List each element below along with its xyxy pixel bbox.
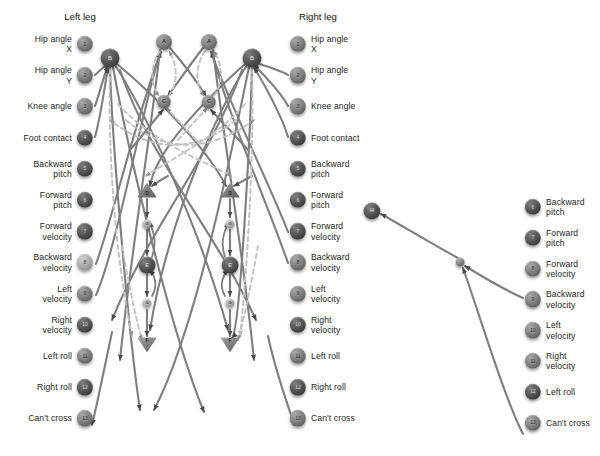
hidden-node-label: D — [145, 191, 149, 197]
hidden-node-f-f2[interactable]: F — [220, 337, 240, 352]
input-label-right-leg-9: Left velocity — [311, 283, 340, 304]
right-leg-heading: Right leg — [299, 11, 337, 22]
solid-edges — [92, 48, 523, 434]
input-label-left-leg-2: Hip angle Y — [35, 65, 72, 86]
hidden-node-a-a1[interactable]: A — [156, 34, 172, 50]
input-label-right-leg-8: Backward velocity — [311, 252, 350, 273]
input-label-left-leg-5: Backward pitch — [33, 158, 72, 179]
input-label-right-leg-12: Right roll — [311, 382, 346, 392]
input-label-left-leg-9: Left velocity — [43, 283, 72, 304]
input-label-right-leg-6: Forward pitch — [311, 190, 343, 211]
input-label-far-right-12: Left roll — [546, 387, 575, 397]
hidden-node-label: F — [145, 337, 148, 343]
input-label-right-leg-7: Forward velocity — [311, 221, 343, 242]
input-label-left-leg-13: Can't cross — [28, 413, 72, 423]
input-label-far-right-10: Left velocity — [546, 320, 575, 341]
input-label-left-leg-6: Forward pitch — [40, 190, 72, 211]
input-label-left-leg-4: Foot contact — [24, 132, 73, 142]
hidden-node-d-d2[interactable]: D — [220, 182, 240, 197]
hidden-node-b-bR[interactable]: B — [243, 49, 262, 68]
input-label-left-leg-1: Hip angle X — [35, 34, 72, 55]
hidden-node-junction-j1[interactable] — [456, 258, 465, 267]
input-label-far-right-8: Forward velocity — [546, 258, 578, 279]
hidden-node-f-f1[interactable]: F — [137, 337, 157, 352]
input-label-right-leg-10: Right velocity — [311, 314, 340, 335]
input-label-right-leg-3: Knee angle — [311, 101, 356, 111]
input-label-far-right-7: Forward pitch — [546, 227, 578, 248]
input-label-far-right-13: Can't cross — [546, 417, 590, 427]
input-label-right-leg-4: Foot contact — [311, 132, 360, 142]
hidden-node-label: F — [228, 337, 231, 343]
input-label-left-leg-11: Left roll — [43, 351, 72, 361]
input-label-far-right-9: Backward velocity — [546, 289, 585, 310]
input-label-right-leg-5: Backward pitch — [311, 158, 350, 179]
hidden-node-e-e2[interactable]: E — [222, 257, 239, 274]
diagram-canvas: Left leg Right leg 1Hip angle X2Hip angl… — [0, 0, 600, 456]
input-label-right-leg-13: Can't cross — [311, 413, 355, 423]
input-label-left-leg-3: Knee angle — [28, 101, 73, 111]
input-label-right-leg-1: Hip angle X — [311, 34, 348, 55]
input-label-left-leg-7: Forward velocity — [40, 221, 72, 242]
hidden-node-label: D — [228, 191, 232, 197]
input-label-far-right-6: Backward pitch — [546, 197, 585, 218]
input-label-left-leg-10: Right velocity — [43, 314, 72, 335]
left-leg-heading: Left leg — [64, 11, 95, 22]
hidden-node-a-a2[interactable]: A — [201, 34, 217, 50]
hidden-node-d-d1[interactable]: D — [137, 182, 157, 197]
input-label-right-leg-11: Left roll — [311, 351, 340, 361]
input-label-left-leg-8: Backward velocity — [33, 252, 72, 273]
input-label-far-right-11: Right velocity — [546, 351, 575, 372]
input-label-right-leg-2: Hip angle Y — [311, 65, 348, 86]
hidden-node-b-bL[interactable]: B — [101, 49, 120, 68]
hidden-node-e-e1[interactable]: E — [139, 257, 156, 274]
input-label-left-leg-12: Right roll — [37, 382, 72, 392]
